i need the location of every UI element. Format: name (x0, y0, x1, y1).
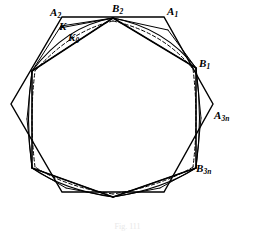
label-a3n-subscript: 3n (222, 114, 230, 123)
chord-segment-4 (168, 30, 196, 68)
label-k0-base: K (68, 31, 76, 43)
label-a2-subscript: 2 (58, 11, 62, 20)
label-b3n-base: B (196, 162, 204, 174)
chord-lines (27, 18, 201, 197)
label-b1: B1 (199, 58, 210, 69)
outer-hexagon-A (11, 17, 213, 192)
label-a1-base: A (167, 5, 175, 17)
curve-k0-segment-3 (113, 167, 193, 194)
chord-segment-3 (113, 18, 168, 30)
label-b3n-subscript: 3n (204, 167, 212, 176)
label-a1-subscript: 1 (175, 10, 179, 19)
curve-k0-segment-0 (35, 21, 113, 71)
label-k-base: K (59, 20, 67, 32)
label-a2: A2 (50, 7, 61, 18)
curve-K (29, 18, 200, 197)
label-b1-base: B (199, 57, 207, 69)
figure-container: A2B2A1KK0B1A3nB3n Fig. 111 (0, 0, 255, 231)
curve-K0-dashed (32, 21, 196, 194)
label-b2-subscript: 2 (120, 7, 124, 16)
curve-k0-segment-1 (113, 21, 193, 69)
label-b2-base: B (112, 2, 120, 14)
label-a3n: A3n (214, 110, 229, 121)
spoke-segment-1 (113, 18, 196, 68)
label-k0: K0 (68, 32, 79, 43)
figure-caption: Fig. 111 (0, 223, 255, 231)
outer-hexagon-path (11, 17, 213, 192)
label-a1: A1 (167, 6, 178, 17)
label-k0-subscript: 0 (76, 36, 80, 45)
label-b2: B2 (112, 3, 123, 14)
label-a2-base: A (50, 6, 58, 18)
label-k: K (59, 21, 67, 32)
chord-segment-1 (32, 26, 61, 71)
label-b1-subscript: 1 (207, 62, 211, 71)
label-b3n: B3n (196, 163, 211, 174)
label-a3n-base: A (214, 109, 222, 121)
